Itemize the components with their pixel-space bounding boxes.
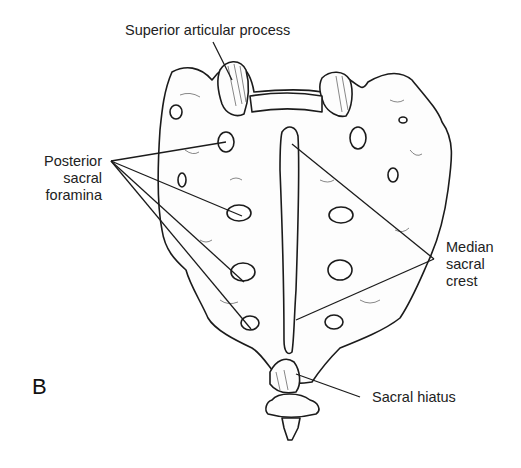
label-line: Posterior xyxy=(38,153,102,170)
label-line: sacral xyxy=(38,170,102,187)
label-median-sacral-crest: Median sacral crest xyxy=(446,239,494,290)
label-line: foramina xyxy=(38,187,102,204)
coccyx xyxy=(266,394,319,417)
label-line: Median xyxy=(446,239,494,256)
foramen-left-3 xyxy=(231,263,255,281)
label-sacral-hiatus: Sacral hiatus xyxy=(372,389,456,406)
leader-sacral-hiatus xyxy=(296,374,360,397)
label-superior-articular-process: Superior articular process xyxy=(125,22,290,39)
foramen-right-1 xyxy=(350,127,366,149)
foramen-left-2 xyxy=(227,205,251,221)
label-posterior-sacral-foramina: Posterior sacral foramina xyxy=(38,153,102,204)
foramen-right-4 xyxy=(325,315,343,329)
foramen-right-3 xyxy=(328,260,352,280)
foramen-right-2 xyxy=(329,207,353,223)
label-line: crest xyxy=(446,273,494,290)
label-line: sacral xyxy=(446,256,494,273)
sacrum-outline xyxy=(158,65,451,383)
panel-letter: B xyxy=(32,374,47,400)
